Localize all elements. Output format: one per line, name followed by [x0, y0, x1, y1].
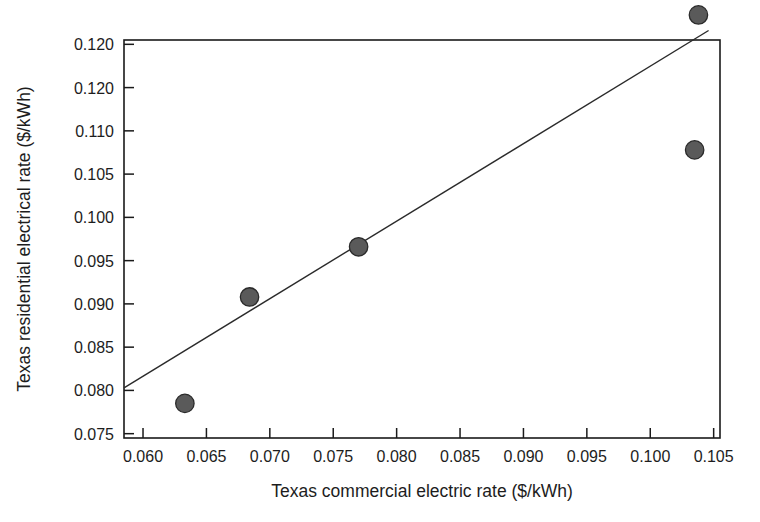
data-point — [685, 141, 703, 159]
x-tick-label: 0.065 — [186, 448, 226, 465]
x-tick-label: 0.060 — [123, 448, 163, 465]
y-axis-ticks — [124, 44, 134, 433]
trend-line — [124, 30, 709, 387]
data-points-group — [176, 6, 708, 413]
x-tick-label: 0.080 — [377, 448, 417, 465]
y-tick-label: 0.105 — [74, 166, 114, 183]
x-tick-label: 0.075 — [313, 448, 353, 465]
x-tick-label: 0.095 — [567, 448, 607, 465]
y-axis-title: Texas residential electrical rate ($/kWh… — [14, 86, 34, 391]
y-tick-label: 0.095 — [74, 253, 114, 270]
x-tick-label: 0.105 — [694, 448, 734, 465]
y-tick-label: 0.110 — [75, 123, 114, 140]
x-tick-label: 0.090 — [503, 448, 543, 465]
x-tick-label: 0.100 — [630, 448, 670, 465]
y-tick-label: 0.080 — [74, 382, 114, 399]
scatter-plot-figure: 0.075 0.080 0.085 0.090 0.095 0.100 0.10… — [0, 0, 760, 522]
plot-frame — [124, 40, 720, 438]
x-tick-labels: 0.060 0.065 0.070 0.075 0.080 0.085 0.09… — [123, 448, 734, 465]
x-tick-label: 0.085 — [440, 448, 480, 465]
x-axis-title: Texas commercial electric rate ($/kWh) — [271, 481, 572, 501]
data-point — [689, 6, 707, 24]
y-tick-label: 0.090 — [74, 296, 114, 313]
x-tick-label: 0.070 — [250, 448, 290, 465]
x-axis-ticks — [143, 428, 714, 438]
y-tick-label: 0.120 — [74, 80, 114, 97]
y-tick-label: 0.120 — [74, 36, 114, 53]
data-point — [176, 394, 194, 412]
data-point — [240, 288, 258, 306]
y-tick-label: 0.085 — [74, 339, 114, 356]
y-tick-labels: 0.075 0.080 0.085 0.090 0.095 0.100 0.10… — [74, 36, 114, 442]
y-tick-label: 0.100 — [74, 209, 114, 226]
data-point — [349, 238, 367, 256]
y-tick-label: 0.075 — [74, 426, 114, 443]
